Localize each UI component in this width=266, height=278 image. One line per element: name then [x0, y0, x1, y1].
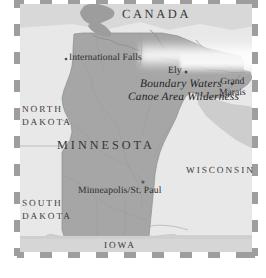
- map-container: CANADA International Falls Ely Boundary …: [0, 0, 266, 278]
- international-falls-dot: [65, 58, 68, 61]
- minneapolis-dot: [141, 180, 144, 183]
- map-graphic: [0, 0, 266, 278]
- boundary-waters-glow-inner: [180, 52, 258, 74]
- frame-dashes-right: [252, 8, 258, 248]
- map-body: [17, 0, 258, 256]
- frame-dashes-left: [14, 8, 20, 248]
- ely-dot: [185, 71, 188, 74]
- grand-marais-dot: [231, 83, 234, 86]
